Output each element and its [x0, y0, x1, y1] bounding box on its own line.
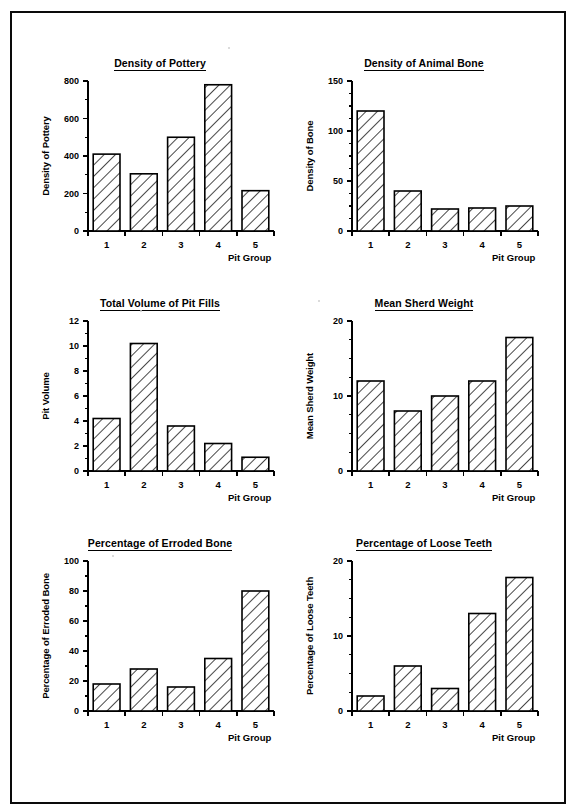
x-tick-label: 2: [141, 239, 146, 250]
bar: [242, 191, 269, 231]
x-tick-label: 2: [141, 719, 146, 730]
y-tick-label: 10: [290, 631, 343, 641]
y-tick-label: 4: [26, 416, 79, 426]
bar: [394, 191, 421, 231]
y-tick-label: 50: [290, 176, 343, 186]
bar: [469, 208, 496, 231]
page-border-frame: Density of Pottery0200400600800Density o…: [10, 11, 566, 804]
y-tick-label: 0: [26, 226, 79, 236]
y-tick-label: 40: [26, 646, 79, 656]
y-tick-label: 10: [26, 341, 79, 351]
bar: [357, 381, 384, 471]
chart-percentage-of-erroded-bone: Percentage of Erroded Bone020406080100Pe…: [26, 531, 294, 773]
bar: [394, 411, 421, 471]
bar: [506, 338, 533, 472]
y-tick-label: 100: [290, 126, 343, 136]
x-tick-label: 4: [216, 719, 221, 730]
x-tick-label: 1: [368, 479, 373, 490]
bar: [469, 614, 496, 712]
x-tick-label: 5: [517, 239, 522, 250]
bar: [93, 684, 120, 711]
x-axis-title: Pit Group: [492, 492, 535, 503]
plot-area: 024681012Pit Volume12345Pit Group: [26, 291, 294, 533]
y-tick-label: 80: [26, 586, 79, 596]
chart-density-of-animal-bone: Density of Animal Bone050100150Density o…: [290, 51, 558, 293]
x-axis-title: Pit Group: [228, 732, 271, 743]
x-tick-label: 1: [104, 239, 109, 250]
x-tick-label: 3: [442, 719, 447, 730]
x-tick-label: 1: [104, 719, 109, 730]
x-tick-label: 5: [253, 719, 258, 730]
bar: [168, 426, 195, 471]
x-tick-label: 1: [104, 479, 109, 490]
x-tick-label: 5: [517, 719, 522, 730]
chart-percentage-of-loose-teeth: Percentage of Loose Teeth01020Percentage…: [290, 531, 558, 773]
y-tick-label: 0: [26, 706, 79, 716]
y-tick-label: 20: [290, 316, 343, 326]
scan-speck: [112, 555, 114, 557]
plot-area: 01020Mean Sherd Weight12345Pit Group: [290, 291, 558, 533]
x-tick-label: 2: [405, 239, 410, 250]
y-tick-label: 6: [26, 391, 79, 401]
y-tick-label: 0: [290, 226, 343, 236]
bar: [168, 137, 195, 231]
bar: [130, 174, 157, 231]
charts-grid: Density of Pottery0200400600800Density o…: [12, 13, 564, 802]
bar: [506, 206, 533, 231]
scan-speck: [228, 47, 230, 49]
bar: [93, 154, 120, 231]
x-tick-label: 5: [517, 479, 522, 490]
bar: [469, 381, 496, 471]
scan-speck: [140, 310, 142, 312]
bars: [357, 578, 533, 712]
bar: [432, 689, 459, 712]
y-tick-label: 0: [290, 706, 343, 716]
x-tick-label: 3: [178, 479, 183, 490]
x-tick-label: 2: [405, 479, 410, 490]
bar: [205, 444, 232, 472]
bar: [168, 687, 195, 711]
x-tick-label: 4: [480, 479, 485, 490]
y-tick-label: 20: [26, 676, 79, 686]
bar: [130, 669, 157, 711]
scan-speck: [318, 300, 320, 302]
bars: [93, 591, 269, 711]
x-tick-label: 3: [178, 719, 183, 730]
x-tick-label: 2: [141, 479, 146, 490]
x-tick-label: 5: [253, 479, 258, 490]
bar: [205, 85, 232, 231]
bars: [357, 338, 533, 472]
x-tick-label: 4: [216, 239, 221, 250]
bar: [242, 457, 269, 471]
y-tick-label: 8: [26, 366, 79, 376]
y-tick-label: 200: [26, 189, 79, 199]
x-axis-title: Pit Group: [228, 492, 271, 503]
bar: [357, 696, 384, 711]
plot-area: 020406080100Percentage of Erroded Bone12…: [26, 531, 294, 773]
bar: [357, 111, 384, 231]
bars: [93, 85, 269, 231]
y-tick-label: 150: [290, 76, 343, 86]
x-tick-label: 5: [253, 239, 258, 250]
y-tick-label: 60: [26, 616, 79, 626]
plot-area: 01020Percentage of Loose Teeth12345Pit G…: [290, 531, 558, 773]
bar: [130, 344, 157, 472]
y-tick-label: 400: [26, 151, 79, 161]
y-tick-label: 20: [290, 556, 343, 566]
x-tick-label: 2: [405, 719, 410, 730]
x-tick-label: 1: [368, 719, 373, 730]
x-tick-label: 3: [442, 239, 447, 250]
bar: [242, 591, 269, 711]
x-axis-title: Pit Group: [228, 252, 271, 263]
x-tick-label: 1: [368, 239, 373, 250]
y-axis-title: Percentage of Loose Teeth: [304, 561, 315, 711]
bar: [93, 419, 120, 472]
x-tick-label: 3: [442, 479, 447, 490]
plot-area: 050100150Density of Bone12345Pit Group: [290, 51, 558, 293]
x-tick-label: 4: [480, 239, 485, 250]
x-axis-title: Pit Group: [492, 252, 535, 263]
y-tick-label: 100: [26, 556, 79, 566]
y-tick-label: 0: [290, 466, 343, 476]
y-tick-label: 0: [26, 466, 79, 476]
plot-area: 0200400600800Density of Pottery12345Pit …: [26, 51, 294, 293]
